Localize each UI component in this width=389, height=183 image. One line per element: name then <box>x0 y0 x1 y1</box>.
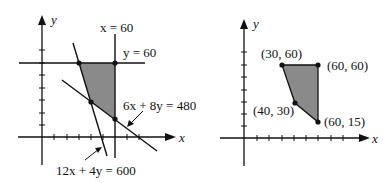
vertex-label-60-60: (60, 60) <box>327 58 368 73</box>
right-x-label: x <box>371 131 378 146</box>
right-y-label: y <box>251 16 259 31</box>
label-12x-4y-600: 12x + 4y = 600 <box>56 163 136 178</box>
left-plot: y x x = 60 y = 60 6x + 8y = 480 12x + 4y… <box>18 12 196 178</box>
left-y-label: y <box>49 12 57 27</box>
left-x-axis-arrow <box>165 133 176 141</box>
vertex-label-40-30: (40, 30) <box>253 103 294 118</box>
vertex-label-60-15: (60, 15) <box>324 114 365 129</box>
vertex-label-30-60: (30, 60) <box>261 46 302 61</box>
right-y-axis-arrow <box>240 19 248 29</box>
diagram-canvas: y x x = 60 y = 60 6x + 8y = 480 12x + 4y… <box>0 0 389 183</box>
feasible-region-left <box>79 63 115 119</box>
label-6x-8y-480: 6x + 8y = 480 <box>123 98 196 113</box>
left-y-axis-arrow <box>38 15 46 25</box>
label-y-60: y = 60 <box>123 45 156 60</box>
label-x-60: x = 60 <box>100 20 133 35</box>
left-x-label: x <box>178 130 185 145</box>
pointer-12x-4y-head <box>95 147 102 153</box>
right-plot: y x (30, 60) (60, 60) (40, 30) (60, 15) <box>220 16 378 166</box>
right-x-axis-arrow <box>359 134 370 142</box>
